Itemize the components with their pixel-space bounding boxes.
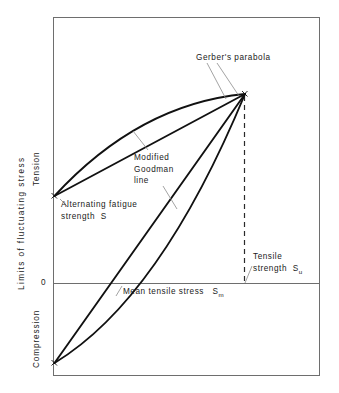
- y-axis-title: Limits of fluctuating stress: [16, 157, 28, 290]
- goodman-label-line-2: Goodman: [134, 164, 174, 176]
- leader-tensile-strength: [245, 266, 252, 283]
- diagram-canvas: [0, 0, 339, 393]
- goodman-label-line-1: Modified: [134, 152, 174, 164]
- goodman-label-line-3: line: [134, 175, 174, 187]
- mean-tensile-stress-label: Mean tensile stress Sm: [123, 286, 224, 300]
- goodman-line-label: Modified Goodman line: [134, 152, 174, 187]
- alternating-label-line-2: strength S: [61, 211, 137, 223]
- leader-mean-stress: [116, 286, 122, 296]
- leader-gerber-lower: [217, 63, 239, 96]
- mean-stress-subscript: m: [218, 291, 223, 298]
- tensile-label-line-1: Tensile: [253, 251, 302, 263]
- y-axis-tension-label: Tension: [31, 151, 43, 186]
- fatigue-limit-diagram: Limits of fluctuating stress Tension Com…: [0, 0, 339, 393]
- goodman-line-compression: [55, 94, 246, 363]
- origin-tick-label: 0: [41, 277, 46, 289]
- alternating-fatigue-strength-label: Alternating fatigue strength S: [61, 199, 137, 222]
- y-axis-compression-label: Compression: [31, 310, 43, 368]
- tensile-strength-label: Tensile strength Su: [253, 251, 302, 277]
- leader-gerber-upper: [207, 63, 226, 99]
- tensile-strength-subscript: u: [299, 267, 302, 274]
- leader-goodman-upper: [133, 131, 148, 150]
- tensile-label-line-2: strength Su: [253, 263, 302, 277]
- alternating-label-line-1: Alternating fatigue: [61, 199, 137, 211]
- gerber-parabola-label: Gerber's parabola: [196, 52, 271, 64]
- plot-frame: [54, 18, 320, 376]
